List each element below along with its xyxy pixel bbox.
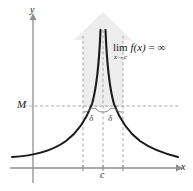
threshold-label-m: M (17, 99, 26, 110)
limit-operator: lim (113, 41, 128, 53)
infinite-limit-figure: y x M c δ δ lim f(x) = ∞ x→c (0, 0, 193, 191)
delta-label-right: δ (108, 114, 112, 123)
limit-expression-main: lim f(x) = ∞ (113, 42, 165, 53)
limit-annotation: lim f(x) = ∞ x→c (113, 42, 165, 61)
x-axis-label: x (181, 162, 185, 172)
center-label-c: c (100, 170, 104, 180)
limit-function: f(x) (130, 41, 145, 53)
figure-canvas (0, 0, 193, 191)
brace-delta-left (84, 108, 102, 112)
limit-equals-infinity: = ∞ (148, 41, 165, 53)
limit-subscript: x→c (114, 54, 165, 61)
y-axis-label: y (30, 5, 34, 15)
delta-label-left: δ (89, 114, 93, 123)
brace-delta-right (104, 108, 122, 112)
